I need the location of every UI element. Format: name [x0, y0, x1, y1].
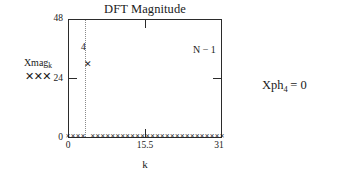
legend-series-subscript: k	[48, 61, 52, 70]
phase-annotation-value: = 0	[288, 78, 307, 92]
k4-guide-line	[85, 20, 87, 137]
x-axis-label: k	[125, 158, 165, 170]
y-tick-label-48: 48	[33, 13, 63, 23]
plot-canvas	[69, 20, 221, 137]
x-tick-label-max: 31	[199, 140, 239, 150]
plot-area	[68, 19, 222, 138]
x-tick-label-0: 0	[48, 140, 88, 150]
y-tick-24-left	[69, 78, 77, 79]
x-tick-label-mid: 15.5	[125, 140, 165, 150]
last-index-annotation: N − 1	[193, 44, 216, 55]
legend-series-name: Xmagk	[12, 58, 64, 69]
chart-title: DFT Magnitude	[68, 2, 222, 17]
x-tick-mid-bottom	[145, 129, 146, 137]
phase-annotation: Xph4 = 0	[262, 78, 307, 93]
phase-annotation-subscript: 4	[284, 84, 288, 94]
figure-root: DFT Magnitude 48 24 0 0 15.5 31 k Xmagk …	[0, 0, 353, 179]
x-tick-mid-top	[145, 20, 146, 28]
phase-annotation-base: Xph	[262, 78, 284, 92]
legend: Xmagk ✕✕✕	[12, 58, 64, 82]
peak-index-annotation: 4	[81, 42, 86, 52]
legend-marker-symbols: ✕✕✕	[12, 71, 64, 83]
legend-series-base: Xmag	[24, 57, 48, 68]
y-tick-24-right	[213, 78, 221, 79]
